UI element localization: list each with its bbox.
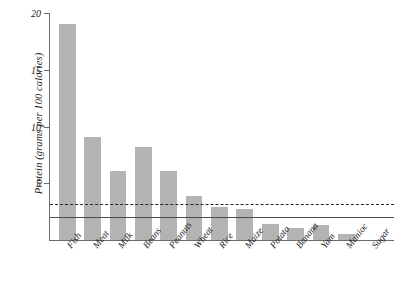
- y-tick-label: 15: [19, 64, 41, 75]
- bar: [110, 171, 127, 240]
- y-tick-mark: [44, 183, 49, 184]
- y-tick-mark: [44, 70, 49, 71]
- y-tick-label: 5: [19, 178, 41, 189]
- y-tick-label: 10: [19, 121, 41, 132]
- bar: [59, 24, 76, 240]
- y-tick-label: 20: [19, 8, 41, 19]
- upper-reference-line: [50, 204, 394, 205]
- bar: [84, 137, 101, 240]
- y-tick-mark: [44, 127, 49, 128]
- y-tick-mark: [44, 13, 49, 14]
- bar: [135, 147, 152, 240]
- lower-reference-line: [50, 217, 394, 218]
- bar: [160, 171, 177, 240]
- protein-bar-chart: Protein (grams per 100 calories) 5101520…: [0, 0, 411, 288]
